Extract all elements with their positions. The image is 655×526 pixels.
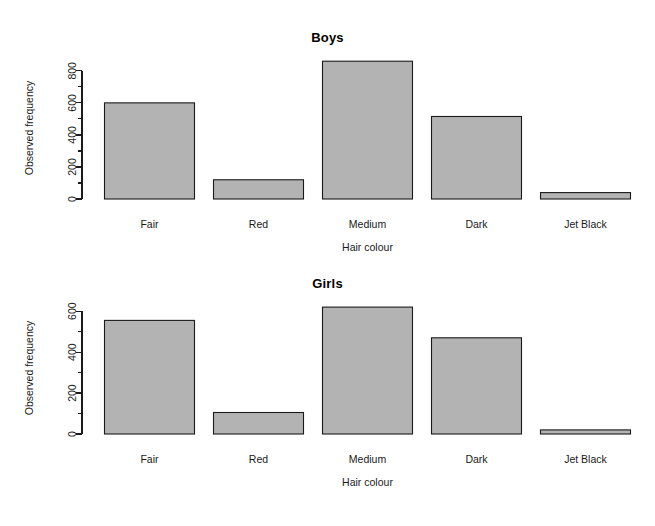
bar-medium	[323, 307, 413, 434]
bar-chart-girls: 0200400600Observed frequencyFairRedMediu…	[0, 263, 655, 526]
plot-area-boys: 0200400600800Observed frequencyFairRedMe…	[0, 0, 655, 263]
y-axis-tick-label: 200	[66, 158, 78, 176]
bar-red	[214, 180, 304, 199]
bar-dark	[432, 116, 522, 199]
y-axis-tick-label: 0	[66, 431, 78, 437]
bar-chart-boys: 0200400600800Observed frequencyFairRedMe…	[0, 0, 655, 263]
y-axis-tick-label: 400	[66, 343, 78, 361]
y-axis-tick-label: 0	[66, 196, 78, 202]
x-axis-title: Hair colour	[342, 476, 393, 488]
bar-dark	[432, 338, 522, 434]
chart-panel-boys: Boys 0200400600800Observed frequencyFair…	[0, 0, 655, 263]
plot-area-girls: 0200400600Observed frequencyFairRedMediu…	[0, 263, 655, 526]
x-axis-tick-label: Red	[249, 453, 268, 465]
y-axis-tick-label: 400	[66, 126, 78, 144]
y-axis-title: Observed frequency	[23, 80, 35, 175]
y-axis-tick-label: 600	[66, 302, 78, 320]
bar-jet-black	[541, 193, 631, 199]
y-axis-tick-label: 600	[66, 94, 78, 112]
x-axis-tick-label: Dark	[465, 453, 488, 465]
chart-panel-girls: Girls 0200400600Observed frequencyFairRe…	[0, 263, 655, 526]
x-axis-tick-label: Fair	[140, 453, 159, 465]
x-axis-tick-label: Medium	[349, 218, 387, 230]
x-axis-tick-label: Jet Black	[564, 218, 607, 230]
x-axis-tick-label: Fair	[140, 218, 159, 230]
y-axis-title: Observed frequency	[23, 320, 35, 415]
x-axis-title: Hair colour	[342, 241, 393, 253]
bar-fair	[105, 320, 195, 434]
x-axis-tick-label: Dark	[465, 218, 488, 230]
y-axis-tick-label: 200	[66, 384, 78, 402]
x-axis-tick-label: Medium	[349, 453, 387, 465]
x-axis-tick-label: Jet Black	[564, 453, 607, 465]
bar-fair	[105, 103, 195, 199]
bar-red	[214, 413, 304, 434]
y-axis-tick-label: 800	[66, 62, 78, 80]
x-axis-tick-label: Red	[249, 218, 268, 230]
bar-jet-black	[541, 430, 631, 434]
figure-canvas: Boys 0200400600800Observed frequencyFair…	[0, 0, 655, 526]
bar-medium	[323, 61, 413, 199]
